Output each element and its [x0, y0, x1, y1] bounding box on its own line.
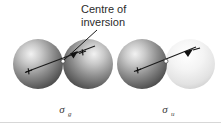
sigma-u-lobe-right [165, 39, 215, 89]
sigma-g-lobe-right [63, 39, 113, 89]
sigma-g-lobe-left [13, 39, 63, 89]
sigma-g-label-subscript: g [68, 110, 72, 118]
inversion-centre-figure: σ g σ u Centre [0, 0, 221, 125]
sigma-u-label-subscript: u [171, 110, 175, 118]
annotation-line-1: Centre of [81, 3, 127, 15]
sigma-g-label: σ [59, 103, 65, 115]
molecule-sigma-g: σ g [13, 39, 113, 118]
molecule-sigma-u: σ u [117, 39, 215, 118]
sigma-u-label: σ [162, 103, 168, 115]
sigma-u-lobe-left [117, 39, 167, 89]
sigma-u-centre-of-inversion-dot [164, 59, 168, 63]
molecular-orbital-diagram: σ g σ u Centre [0, 0, 221, 125]
annotation-line-2: inversion [81, 16, 125, 28]
